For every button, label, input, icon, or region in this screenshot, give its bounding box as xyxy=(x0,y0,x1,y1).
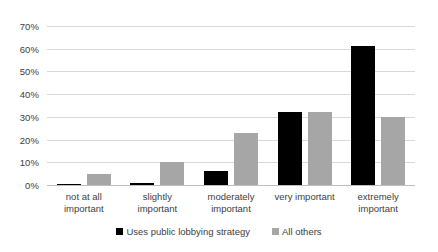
bar-series-a[interactable] xyxy=(351,46,375,185)
y-axis-tick-label: 30% xyxy=(20,111,39,122)
bar-series-b[interactable] xyxy=(308,112,332,185)
bar-series-a[interactable] xyxy=(278,112,302,185)
bar-series-b[interactable] xyxy=(87,174,111,185)
bar-chart: 70%60%50%40%30%20%10%0% not at allimport… xyxy=(0,0,438,252)
x-axis-category-label: very important xyxy=(268,191,342,214)
legend-swatch-icon xyxy=(272,228,279,235)
plot-area xyxy=(47,0,415,190)
y-axis-tick-label: 60% xyxy=(20,43,39,54)
x-axis-category-label: moderatelyimportant xyxy=(194,191,268,214)
bar-series-a[interactable] xyxy=(130,183,154,185)
legend-item[interactable]: Uses public lobbying strategy xyxy=(116,226,250,237)
plot-wrapper: 70%60%50%40%30%20%10%0% xyxy=(0,0,438,190)
y-axis-tick-label: 50% xyxy=(20,66,39,77)
bar-series-b[interactable] xyxy=(234,133,258,185)
y-axis-tick-label: 0% xyxy=(25,180,39,191)
legend-label: All others xyxy=(282,226,322,237)
x-axis-category-label: slightly important xyxy=(121,191,195,214)
bar-series-b[interactable] xyxy=(381,117,405,185)
bar-group xyxy=(194,0,268,190)
legend-label: Uses public lobbying strategy xyxy=(126,226,250,237)
y-axis-tick-label: 40% xyxy=(20,89,39,100)
y-axis-tick-label: 20% xyxy=(20,134,39,145)
x-axis-category-label-line: extremely xyxy=(343,191,413,203)
x-axis-category-label: not at allimportant xyxy=(47,191,121,214)
y-axis-tick-label: 10% xyxy=(20,157,39,168)
y-axis: 70%60%50%40%30%20%10%0% xyxy=(0,0,45,190)
x-axis-category-label-line: important xyxy=(343,203,413,215)
x-axis-category-label-line: very important xyxy=(270,191,340,203)
x-axis-category-label-line: slightly important xyxy=(123,191,193,214)
legend-item[interactable]: All others xyxy=(272,226,322,237)
x-axis-category-label-line: important xyxy=(196,203,266,215)
bar-series-a[interactable] xyxy=(57,184,81,185)
bar-groups xyxy=(47,0,415,190)
bar-series-a[interactable] xyxy=(204,171,228,185)
x-axis-category-labels: not at allimportantslightly importantmod… xyxy=(47,191,415,214)
x-axis-category-label: extremelyimportant xyxy=(341,191,415,214)
legend: Uses public lobbying strategyAll others xyxy=(0,226,438,237)
bar-group xyxy=(268,0,342,190)
legend-swatch-icon xyxy=(116,228,123,235)
x-axis-category-label-line: moderately xyxy=(196,191,266,203)
y-axis-tick-label: 70% xyxy=(20,21,39,32)
x-axis-category-label-line: not at all xyxy=(49,191,119,203)
x-axis-category-label-line: important xyxy=(49,203,119,215)
bar-group xyxy=(341,0,415,190)
bar-series-b[interactable] xyxy=(160,162,184,185)
bar-group xyxy=(121,0,195,190)
bar-group xyxy=(47,0,121,190)
